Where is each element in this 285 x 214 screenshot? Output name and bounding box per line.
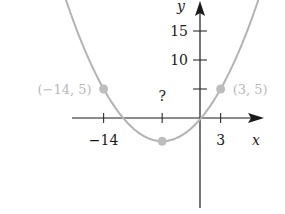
parabola-chart: −14?3x1015y(−14, 5)(3, 5) — [0, 0, 285, 214]
labels: −14?3x1015y(−14, 5)(3, 5) — [38, 0, 268, 148]
data-point — [158, 137, 167, 146]
axes — [72, 1, 264, 208]
y-tick-label: 15 — [170, 23, 188, 39]
data-point — [99, 85, 108, 94]
x-tick-label: −14 — [89, 132, 119, 148]
point-label: (3, 5) — [233, 82, 268, 97]
y-tick-label: 10 — [170, 52, 188, 68]
x-tick-label: 3 — [216, 132, 225, 148]
x-axis-label: x — [252, 132, 260, 148]
data-point — [216, 85, 225, 94]
y-axis-label: y — [176, 0, 186, 14]
vertex-x-question-label: ? — [158, 88, 166, 104]
point-label: (−14, 5) — [38, 82, 92, 97]
